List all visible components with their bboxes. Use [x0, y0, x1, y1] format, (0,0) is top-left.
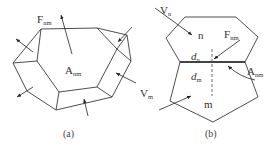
label-a-nm-a: Anm	[65, 65, 81, 77]
cell-m	[170, 62, 258, 122]
label-n: n	[198, 30, 204, 41]
label-f-nm-a: Fnm	[37, 14, 51, 26]
label-v-m: Vm	[140, 88, 153, 100]
arrows-b	[155, 8, 255, 110]
label-m: m	[204, 99, 213, 110]
label-a-nm-b: Anm	[247, 66, 263, 78]
label-v-n: Vn	[160, 5, 171, 17]
label-f-nm-b: Fnm	[224, 29, 238, 41]
caption-a: (a)	[63, 128, 74, 139]
caption-b: (b)	[205, 128, 217, 139]
label-d-n: dn	[191, 51, 200, 63]
label-d-m: dm	[191, 71, 202, 83]
diagram-root: Fnm Anm (a) Vn n Fnm dn dm Anm Vm m (b)	[0, 0, 276, 155]
